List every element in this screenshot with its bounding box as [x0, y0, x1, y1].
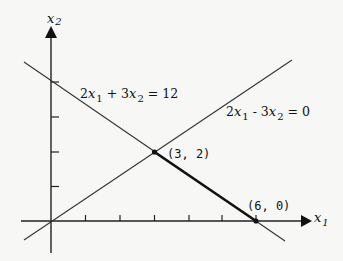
var: x — [88, 86, 96, 101]
operator: - — [249, 104, 261, 119]
operator: + — [103, 86, 121, 101]
lp-diagram: x2 x1 2x1 + 3x2 = 12 2x1 - 3x2 = 0 (3, 2… — [0, 0, 343, 261]
equation-label-2: 2x1 - 3x2 = 0 — [226, 104, 310, 122]
svg-text:x1: x1 — [314, 210, 329, 228]
rhs: = 0 — [284, 104, 310, 119]
equation-label-1: 2x1 + 3x2 = 12 — [80, 86, 178, 104]
coef: 2 — [226, 104, 234, 119]
svg-text:x2: x2 — [47, 11, 62, 27]
y-axis-ticks — [51, 82, 59, 187]
y-axis-sub: 2 — [54, 16, 61, 27]
var: x — [269, 104, 277, 119]
point-label-3-2: (3, 2) — [167, 147, 210, 161]
y-axis-arrow-icon — [45, 26, 57, 38]
feasible-segment — [155, 152, 257, 221]
coef: 2 — [80, 86, 88, 101]
var: x — [234, 104, 242, 119]
y-axis-var: x — [47, 11, 55, 26]
x-axis-var: x — [314, 210, 322, 225]
axes — [21, 26, 312, 253]
coef: 3 — [121, 86, 129, 101]
svg-text:2x1 + 3x2 = 12: 2x1 + 3x2 = 12 — [80, 86, 178, 104]
point-6-0-marker — [253, 218, 258, 223]
point-label-6-0: (6, 0) — [247, 199, 290, 213]
svg-text:2x1 - 3x2 = 0: 2x1 - 3x2 = 0 — [226, 104, 310, 122]
x-axis-label: x1 — [314, 210, 329, 228]
coef: 3 — [261, 104, 269, 119]
rhs: = 12 — [144, 86, 178, 101]
var: x — [129, 86, 137, 101]
x-axis-sub: 1 — [322, 217, 328, 228]
y-axis-label: x2 — [47, 11, 62, 27]
x-axis-arrow-icon — [301, 215, 312, 227]
point-3-2-marker — [152, 149, 157, 154]
x-axis-ticks — [86, 215, 257, 221]
